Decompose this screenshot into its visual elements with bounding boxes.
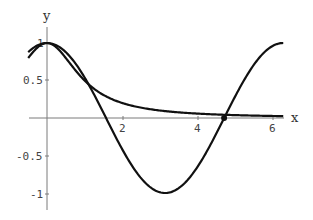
y-tick-label: -0.5 [16, 150, 43, 163]
y-axis-label: y [42, 8, 51, 23]
x-tick-label: 2 [119, 122, 126, 135]
intersection-point [221, 115, 227, 121]
x-tick-label: 4 [194, 122, 201, 135]
x-axis-label: x [291, 110, 299, 125]
y-tick-label: -1 [30, 188, 43, 201]
plot: 2 4 6 1 0.5 -0.5 -1 x y [0, 0, 313, 220]
x-tick-label: 6 [269, 122, 276, 135]
y-tick-label: 0.5 [23, 74, 43, 87]
